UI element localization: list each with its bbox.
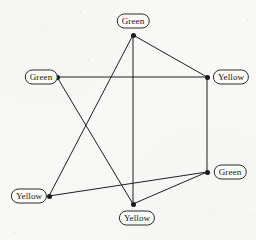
graph-node-label[interactable]: Yellow [11, 189, 47, 204]
graph-node-label[interactable]: Yellow [119, 211, 155, 226]
graph-node-label[interactable]: Green [117, 14, 150, 29]
edges-group [49, 35, 207, 204]
graph-vertex-dot [131, 33, 136, 38]
graph-edge [133, 35, 207, 77]
graph-vertex-dot [205, 75, 210, 80]
graph-node-label[interactable]: Green [214, 165, 247, 180]
graph-edge [49, 35, 133, 196]
graph-vertex-dot [47, 194, 52, 199]
graph-edge [49, 172, 207, 196]
graph-node-label[interactable]: Yellow [213, 70, 249, 85]
graph-edges-layer [0, 0, 256, 240]
graph-vertex-dot [205, 170, 210, 175]
graph-vertex-dot [131, 202, 136, 207]
graph-coloring-figure: GreenGreenYellowGreenYellowYellow [0, 0, 256, 240]
graph-edge [133, 172, 207, 204]
graph-node-label[interactable]: Green [25, 70, 58, 85]
